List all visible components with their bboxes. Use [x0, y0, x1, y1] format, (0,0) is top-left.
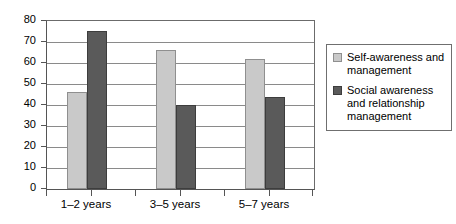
x-tick-mark: [312, 190, 313, 196]
y-tick-label: 0: [30, 182, 36, 193]
bar-0-1: [156, 50, 176, 189]
x-tick-mark: [135, 190, 136, 196]
y-tick-label: 60: [24, 56, 36, 67]
y-axis: 01020304050607080: [0, 0, 46, 224]
bar-1-0: [87, 31, 107, 189]
legend-entry: Self-awareness and management: [333, 51, 446, 77]
chart-legend: Self-awareness and managementSocial awar…: [326, 44, 452, 131]
y-tick-label: 50: [24, 77, 36, 88]
x-tick-mark: [269, 190, 270, 196]
legend-label: Self-awareness and management: [347, 51, 446, 77]
legend-swatch-icon: [333, 53, 342, 62]
y-tick-label: 40: [24, 98, 36, 109]
bar-1-1: [176, 105, 196, 189]
legend-entry: Social awareness and relationship manage…: [333, 84, 446, 123]
x-tick-mark: [180, 190, 181, 196]
bar-1-2: [265, 97, 285, 189]
x-axis-ticks: [46, 190, 315, 197]
x-tick-label: 5–7 years: [239, 198, 290, 211]
y-tick-label: 10: [24, 161, 36, 172]
bar-chart-figure: 01020304050607080 1–2 years3–5 years5–7 …: [0, 0, 456, 224]
legend-swatch-icon: [333, 86, 342, 95]
legend-label: Social awareness and relationship manage…: [347, 84, 446, 123]
x-tick-mark: [91, 190, 92, 196]
plot-area: [46, 20, 315, 190]
y-tick-label: 20: [24, 140, 36, 151]
y-tick-label: 80: [24, 14, 36, 25]
y-tick-label: 70: [24, 35, 36, 46]
y-tick-label: 30: [24, 119, 36, 130]
x-axis-labels: 1–2 years3–5 years5–7 years: [46, 198, 315, 218]
x-tick-mark: [224, 190, 225, 196]
x-tick-mark: [46, 190, 47, 196]
x-tick-label: 1–2 years: [61, 198, 112, 211]
x-tick-label: 3–5 years: [150, 198, 201, 211]
bar-0-0: [67, 92, 87, 189]
bar-0-2: [245, 59, 265, 189]
